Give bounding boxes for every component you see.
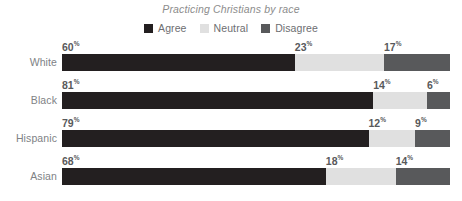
- segment-value-number: 68: [62, 155, 74, 167]
- legend-item-label: Neutral: [214, 22, 249, 34]
- segment-value-suffix: %: [407, 154, 413, 161]
- bar-segment-agree[interactable]: 68%: [62, 168, 326, 185]
- stacked-bar: 68%18%14%: [62, 168, 450, 185]
- bar-segment-agree[interactable]: 60%: [62, 54, 295, 71]
- chart-row: White60%23%17%: [0, 42, 462, 80]
- segment-value-label: 79%: [62, 117, 79, 128]
- legend-swatch-icon: [144, 24, 153, 33]
- segment-value-suffix: %: [306, 40, 312, 47]
- segment-value-suffix: %: [74, 116, 80, 123]
- segment-value-number: 18: [326, 155, 338, 167]
- segment-value-number: 81: [62, 79, 74, 91]
- bar-segment-agree[interactable]: 79%: [62, 130, 369, 147]
- segment-value-suffix: %: [338, 154, 344, 161]
- segment-value-suffix: %: [385, 78, 391, 85]
- legend-swatch-icon: [261, 24, 270, 33]
- bar-segment-agree[interactable]: 81%: [62, 92, 373, 109]
- segment-value-suffix: %: [421, 116, 427, 123]
- segment-value-label: 68%: [62, 155, 79, 166]
- segment-value-suffix: %: [74, 40, 80, 47]
- segment-value-label: 23%: [295, 41, 312, 52]
- chart-legend: AgreeNeutralDisagree: [0, 22, 462, 34]
- chart-row: Black81%14%6%: [0, 80, 462, 118]
- chart-title: Practicing Christians by race: [0, 3, 462, 15]
- segment-value-label: 18%: [326, 155, 343, 166]
- segment-value-label: 14%: [373, 79, 390, 90]
- category-label: Black: [0, 94, 57, 106]
- stacked-bar: 81%14%6%: [62, 92, 450, 109]
- segment-value-label: 6%: [427, 79, 439, 90]
- stacked-bar: 60%23%17%: [62, 54, 450, 71]
- segment-value-number: 17: [384, 41, 396, 53]
- bar-segment-disagree[interactable]: 14%: [396, 168, 450, 185]
- segment-value-number: 14: [373, 79, 385, 91]
- bar-segment-disagree[interactable]: 6%: [427, 92, 450, 109]
- stacked-bar: 79%12%9%: [62, 130, 450, 147]
- segment-value-label: 60%: [62, 41, 79, 52]
- segment-value-label: 17%: [384, 41, 401, 52]
- bar-segment-neutral[interactable]: 14%: [373, 92, 427, 109]
- legend-item-label: Disagree: [275, 22, 318, 34]
- legend-swatch-icon: [200, 24, 209, 33]
- chart-plot-area: White60%23%17%Black81%14%6%Hispanic79%12…: [0, 42, 462, 194]
- legend-item-agree[interactable]: Agree: [144, 22, 187, 34]
- legend-item-label: Agree: [158, 22, 187, 34]
- bar-segment-disagree[interactable]: 9%: [415, 130, 450, 147]
- segment-value-number: 79: [62, 117, 74, 129]
- bar-segment-neutral[interactable]: 12%: [369, 130, 416, 147]
- segment-value-number: 23: [295, 41, 307, 53]
- category-label: Asian: [0, 170, 57, 182]
- segment-value-label: 12%: [369, 117, 386, 128]
- segment-value-suffix: %: [433, 78, 439, 85]
- chart-row: Asian68%18%14%: [0, 156, 462, 194]
- category-label: Hispanic: [0, 132, 57, 144]
- segment-value-label: 81%: [62, 79, 79, 90]
- segment-value-label: 9%: [415, 117, 427, 128]
- segment-value-suffix: %: [396, 40, 402, 47]
- legend-item-neutral[interactable]: Neutral: [200, 22, 249, 34]
- segment-value-suffix: %: [380, 116, 386, 123]
- chart-row: Hispanic79%12%9%: [0, 118, 462, 156]
- bar-segment-neutral[interactable]: 18%: [326, 168, 396, 185]
- segment-value-suffix: %: [74, 78, 80, 85]
- bar-segment-disagree[interactable]: 17%: [384, 54, 450, 71]
- legend-item-disagree[interactable]: Disagree: [261, 22, 318, 34]
- category-label: White: [0, 56, 57, 68]
- segment-value-number: 14: [396, 155, 408, 167]
- bar-segment-neutral[interactable]: 23%: [295, 54, 384, 71]
- segment-value-suffix: %: [74, 154, 80, 161]
- segment-value-number: 12: [369, 117, 381, 129]
- segment-value-label: 14%: [396, 155, 413, 166]
- segment-value-number: 60: [62, 41, 74, 53]
